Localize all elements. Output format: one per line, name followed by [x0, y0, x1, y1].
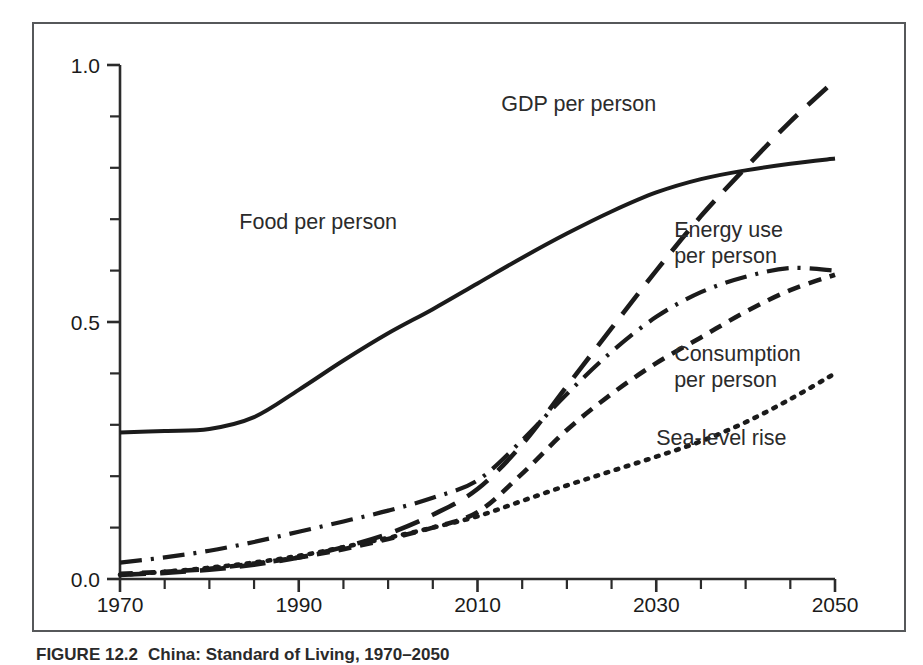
series-label-sea-level-rise: Sea-level rise	[656, 426, 786, 450]
series-line-gdp-per-person	[120, 80, 835, 574]
series-label-energy-use-per-person-line2: per person	[674, 244, 777, 268]
x-tick-label-1970: 1970	[97, 593, 144, 616]
x-tick-label-1990: 1990	[275, 593, 322, 616]
series-label-energy-use-per-person: Energy use	[674, 218, 783, 242]
x-tick-label-2010: 2010	[454, 593, 501, 616]
series-label-gdp-per-person: GDP per person	[501, 92, 656, 116]
y-tick-label-0.0: 0.0	[71, 568, 100, 591]
standard-of-living-line-chart: 1.0 0.5 0.0 1970 1990 2010 2030 2050 GDP…	[34, 24, 904, 630]
figure-caption-title: China: Standard of Living, 1970–2050	[148, 645, 449, 664]
series-label-consumption-per-person: Consumption	[674, 342, 801, 366]
chart-axes	[107, 65, 835, 592]
x-tick-label-2050: 2050	[812, 593, 859, 616]
series-line-sea-level-rise	[120, 373, 835, 574]
x-tick-label-2030: 2030	[633, 593, 680, 616]
chart-frame: 1.0 0.5 0.0 1970 1990 2010 2030 2050 GDP…	[32, 22, 906, 632]
y-tick-label-1.0: 1.0	[71, 54, 100, 77]
chart-series	[120, 80, 835, 574]
figure-caption-number: FIGURE 12.2	[36, 645, 138, 664]
series-label-food-per-person: Food per person	[239, 210, 397, 234]
y-tick-label-0.5: 0.5	[71, 311, 100, 334]
series-label-consumption-per-person-line2: per person	[674, 368, 777, 392]
figure-caption: FIGURE 12.2China: Standard of Living, 19…	[36, 645, 896, 665]
